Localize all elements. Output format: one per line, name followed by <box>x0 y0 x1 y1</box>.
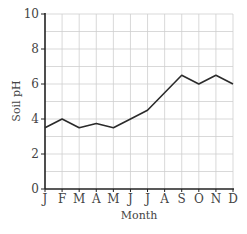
line-chart: 0246810 JFMAMJJASOND Month Soil pH <box>0 0 247 234</box>
x-tick-label: J <box>41 192 48 206</box>
x-tick-label: F <box>58 192 66 206</box>
x-tick-label: A <box>159 192 169 206</box>
x-tick-label: M <box>107 192 119 206</box>
x-tick-label: J <box>126 192 133 206</box>
y-axis-title: Soil pH <box>10 80 23 121</box>
x-tick-label: S <box>178 192 186 206</box>
y-axis-ticks: 0246810 <box>24 7 45 196</box>
x-axis-ticks: JFMAMJJASOND <box>41 189 238 206</box>
y-tick-label: 8 <box>31 42 39 56</box>
y-tick-label: 4 <box>31 112 39 126</box>
x-tick-label: N <box>211 192 222 206</box>
x-axis-title: Month <box>121 209 157 222</box>
y-tick-label: 6 <box>31 77 39 91</box>
grid-lines <box>45 14 233 189</box>
x-tick-label: O <box>194 192 204 206</box>
y-tick-label: 10 <box>24 7 39 21</box>
x-tick-label: M <box>73 192 85 206</box>
x-tick-label: A <box>91 192 101 206</box>
x-tick-label: D <box>228 192 238 206</box>
axes <box>45 13 234 189</box>
y-tick-label: 0 <box>31 182 39 196</box>
y-tick-label: 2 <box>31 147 39 161</box>
x-tick-label: J <box>143 192 150 206</box>
